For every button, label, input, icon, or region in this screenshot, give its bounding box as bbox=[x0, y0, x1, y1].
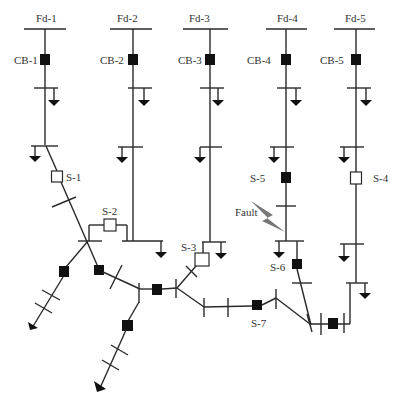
load-arrow-icon bbox=[28, 322, 38, 330]
circuit-breaker[interactable] bbox=[59, 266, 69, 277]
fault-label: Fault bbox=[235, 206, 258, 218]
switch-s-1[interactable] bbox=[52, 171, 63, 182]
feeder-4-label: Fd-4 bbox=[277, 12, 298, 24]
s-5-label: S-5 bbox=[250, 172, 266, 184]
s-4-label: S-4 bbox=[373, 172, 389, 184]
feeder-5: Fd-5 CB-5 S-4 bbox=[307, 12, 389, 335]
feeder-3-label: Fd-3 bbox=[189, 12, 210, 24]
circuit-breaker[interactable] bbox=[152, 284, 162, 295]
load-icon bbox=[29, 156, 41, 162]
load-icon bbox=[48, 100, 60, 106]
load-icon bbox=[194, 157, 206, 163]
load-icon bbox=[138, 100, 150, 106]
load-icon bbox=[215, 253, 227, 259]
s-7-label: S-7 bbox=[251, 317, 267, 329]
load-icon bbox=[338, 157, 350, 163]
circuit-breaker-cb-3[interactable] bbox=[205, 54, 215, 65]
switch-s-3[interactable] bbox=[195, 253, 209, 266]
load-icon bbox=[359, 293, 371, 299]
circuit-breaker-cb-4[interactable] bbox=[281, 54, 291, 65]
circuit-breaker-cb-2[interactable] bbox=[128, 54, 138, 65]
circuit-breaker[interactable] bbox=[122, 320, 133, 331]
load-icon bbox=[338, 256, 350, 262]
circuit-breaker-cb-1[interactable] bbox=[40, 54, 50, 65]
feeder-1-label: Fd-1 bbox=[36, 12, 57, 24]
circuit-breaker[interactable] bbox=[94, 265, 104, 275]
load-icon bbox=[155, 252, 167, 258]
lower-network: S-7 bbox=[28, 265, 310, 392]
cb-4-label: CB-4 bbox=[247, 54, 271, 66]
load-icon bbox=[212, 100, 224, 106]
load-icon bbox=[273, 252, 285, 258]
feeder-2-label: Fd-2 bbox=[117, 12, 138, 24]
s-6-label: S-6 bbox=[270, 261, 286, 273]
switch-s-6[interactable] bbox=[292, 259, 302, 269]
load-icon bbox=[360, 100, 372, 106]
cb-5-label: CB-5 bbox=[320, 54, 344, 66]
load-icon bbox=[116, 157, 128, 163]
switch-s-5[interactable] bbox=[281, 172, 291, 183]
load-icon bbox=[290, 100, 302, 106]
feeder-5-label: Fd-5 bbox=[345, 12, 366, 24]
circuit-breaker-cb-5[interactable] bbox=[351, 54, 361, 65]
cb-2-label: CB-2 bbox=[100, 54, 124, 66]
switch-s-2[interactable] bbox=[104, 219, 116, 231]
feeder-4: Fd-4 CB-4 S-5 Fault S-6 bbox=[235, 12, 312, 325]
cb-1-label: CB-1 bbox=[14, 54, 38, 66]
tie-breaker[interactable] bbox=[328, 318, 338, 329]
distribution-network-diagram: Fd-1 CB-1 S-1 S-2 Fd-2 bbox=[0, 0, 401, 410]
s-2-label: S-2 bbox=[102, 205, 117, 217]
s-1-label: S-1 bbox=[66, 171, 81, 183]
load-arrow-icon bbox=[94, 381, 106, 392]
load-icon bbox=[268, 157, 280, 163]
feeder-3: Fd-3 CB-3 S-3 bbox=[177, 12, 228, 288]
tie-s-2: S-2 bbox=[89, 205, 127, 241]
switch-s-7[interactable] bbox=[252, 300, 262, 310]
switch-s-4[interactable] bbox=[351, 172, 362, 184]
s-3-label: S-3 bbox=[181, 241, 197, 253]
cb-3-label: CB-3 bbox=[178, 54, 202, 66]
